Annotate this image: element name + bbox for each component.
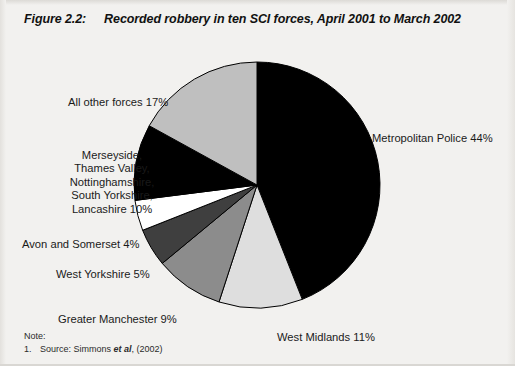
pie-label-avon-and-somerset: Avon and Somerset 4% bbox=[22, 238, 139, 251]
note-item-text: Source: Simmons et al, (2002) bbox=[40, 343, 163, 356]
page-edge-top bbox=[0, 0, 515, 5]
figure-number: Figure 2.2: bbox=[24, 12, 86, 26]
figure-panel: Figure 2.2:Recorded robbery in ten SCI f… bbox=[0, 0, 515, 388]
pie-label-all-other-forces: All other forces 17% bbox=[68, 96, 168, 109]
pie-label-west-yorkshire: West Yorkshire 5% bbox=[56, 268, 150, 281]
pie-chart: Metropolitan Police 44% All other forces… bbox=[0, 30, 515, 320]
note-text-after: , (2002) bbox=[132, 344, 163, 354]
note-heading: Note: bbox=[24, 330, 163, 343]
pie-label-greater-manchester: Greater Manchester 9% bbox=[58, 313, 177, 326]
note-item-number: 1. bbox=[24, 343, 40, 356]
note-item: 1. Source: Simmons et al, (2002) bbox=[24, 343, 163, 356]
pie-label-west-midlands: West Midlands 11% bbox=[277, 331, 375, 344]
note-text-italic: et al bbox=[114, 344, 132, 354]
figure-title-text: Recorded robbery in ten SCI forces, Apri… bbox=[104, 12, 461, 26]
page-edge-bottom bbox=[0, 366, 515, 388]
pie-label-merseyside-group: Merseyside,Thames Valley,Nottinghamshire… bbox=[28, 149, 196, 216]
note-text-before: Source: Simmons bbox=[40, 344, 114, 354]
pie-label-metropolitan-police: Metropolitan Police 44% bbox=[372, 132, 493, 145]
figure-title: Figure 2.2:Recorded robbery in ten SCI f… bbox=[24, 12, 461, 26]
figure-note: Note: 1. Source: Simmons et al, (2002) bbox=[24, 330, 163, 356]
